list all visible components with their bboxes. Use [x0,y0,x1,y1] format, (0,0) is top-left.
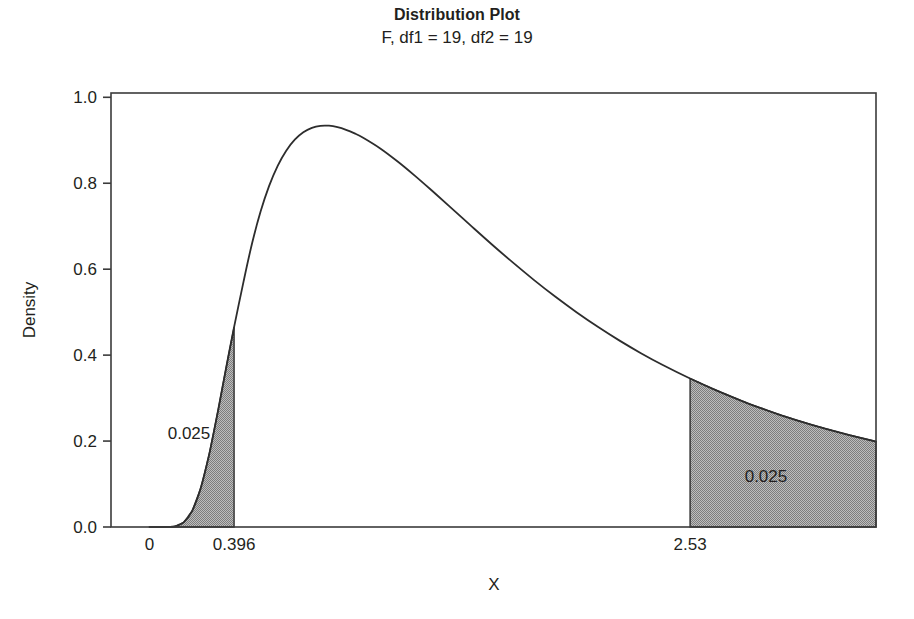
y-axis-ticks: 0.00.20.40.60.81.0 [73,88,111,537]
area-label-lower-tail: 0.025 [168,424,211,443]
shaded-regions [149,327,876,527]
distribution-plot-figure: Distribution Plot F, df1 = 19, df2 = 19 … [0,0,914,619]
y-tick-label: 0.8 [73,174,97,193]
y-tick-label: 0.0 [73,518,97,537]
y-axis-title: Density [20,281,39,338]
x-tick-label: 0.396 [213,535,256,554]
plot-area: 0.00.20.40.60.81.0 00.3962.53 0.0250.025… [0,0,914,619]
y-tick-label: 0.2 [73,432,97,451]
x-axis-title: X [488,575,499,594]
x-axis-ticks: 00.3962.53 [145,535,707,554]
y-tick-label: 0.4 [73,346,97,365]
y-tick-label: 1.0 [73,88,97,107]
area-label-upper-tail: 0.025 [745,467,788,486]
y-tick-label: 0.6 [73,260,97,279]
x-tick-label: 2.53 [674,535,707,554]
shaded-region-upper-tail [690,379,876,527]
x-tick-label: 0 [145,535,154,554]
